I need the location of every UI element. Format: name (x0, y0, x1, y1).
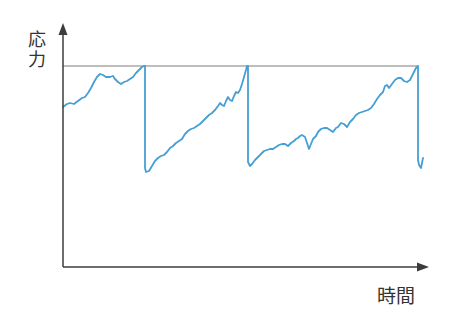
y-axis-arrow-icon (59, 23, 68, 35)
y-axis-label: 応力 (26, 30, 45, 70)
x-axis-label: 時間 (377, 281, 415, 308)
x-axis-arrow-icon (417, 263, 429, 272)
stress-curve (63, 66, 423, 172)
chart-canvas (0, 0, 450, 325)
stress-time-figure: 応力 時間 (0, 0, 450, 325)
